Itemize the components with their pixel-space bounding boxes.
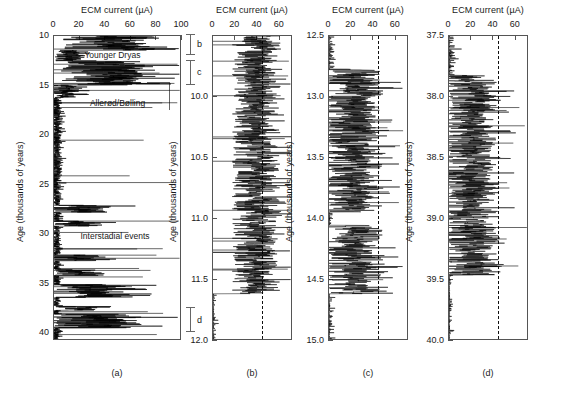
panel-b-xtick-mark: [234, 35, 235, 40]
panel-d-ytick-mark: [448, 96, 453, 97]
panel-d-ytick-mark: [448, 157, 453, 158]
annotation-leader-line: [169, 82, 170, 110]
panel-b-ytick-mark: [212, 218, 217, 219]
panel-c-xtick-label: 60: [390, 19, 400, 29]
panel-a-xtick-mark: [181, 35, 182, 40]
bracket-stem: [190, 307, 191, 332]
panel-c-ytick-mark: [328, 218, 333, 219]
panel-a-xtick-label: 60: [125, 19, 135, 29]
panel-d-ytick-mark: [448, 340, 453, 341]
panel-d-ytick-label: 37.5: [414, 30, 444, 40]
panel-b-caption: (b): [247, 368, 258, 378]
panel-b-plot-frame: [212, 35, 292, 340]
panel-b-y-axis-label: Age (thousands of years): [168, 141, 178, 242]
panel-c-xtick-mark: [350, 35, 351, 40]
panel-d-plot-frame: [448, 35, 528, 340]
bracket-stem: [190, 60, 191, 85]
panel-c-ytick-label: 15.0: [294, 335, 324, 345]
panel-c-xtick-label: 20: [345, 19, 355, 29]
panel-c-ytick-label: 13.0: [294, 91, 324, 101]
panel-b-xtick-label: 0: [209, 19, 214, 29]
panel-b-ytick-label: 11.5: [178, 274, 208, 284]
panel-b-ytick-label: 10.0: [178, 91, 208, 101]
panel-d-xtick-label: 20: [465, 19, 475, 29]
panel-c-xtick-mark: [395, 35, 396, 40]
panel-c-caption: (c): [363, 368, 374, 378]
panel-c-xtick-mark: [372, 35, 373, 40]
bracket-cap: [186, 54, 195, 55]
panel-a-ytick-label: 30: [25, 228, 49, 238]
panel-a-xtick-mark: [130, 35, 131, 40]
bracket-cap: [186, 60, 195, 61]
panel-b-xtick-label: 40: [251, 19, 261, 29]
bracket-cap: [186, 34, 195, 35]
panel-a-xtick-label: 20: [74, 19, 84, 29]
panel-d-x-ticklabels: 0204060: [448, 19, 528, 31]
panel-a-xtick-label: 40: [99, 19, 109, 29]
panel-a-annotation: Younger Dryas: [83, 50, 141, 60]
panel-a-ytick-label: 25: [25, 179, 49, 189]
panel-d-reference-line: [498, 36, 499, 339]
panel-c-ytick-label: 14.5: [294, 274, 324, 284]
panel-c-x-ticklabels: 0204060: [328, 19, 408, 31]
bracket-cap: [186, 307, 195, 308]
panel-c-ytick-mark: [328, 157, 333, 158]
panel-c-ytick-label: 14.0: [294, 213, 324, 223]
panel-c-ytick-mark: [328, 340, 333, 341]
panel-c-ytick-mark: [328, 96, 333, 97]
bracket-label: b: [197, 39, 202, 49]
annotation-leader-line: [147, 82, 170, 83]
panel-c-ytick-label: 13.5: [294, 152, 324, 162]
panel-c-ytick-mark: [328, 35, 333, 36]
panel-b-xtick-mark: [256, 35, 257, 40]
panel-b-xtick-label: 20: [229, 19, 239, 29]
panel-c-plot-frame: [328, 35, 408, 340]
panel-d-xtick-mark: [470, 35, 471, 40]
panel-b-ytick-label: 11.0: [178, 213, 208, 223]
panel-d-xtick-mark: [492, 35, 493, 40]
panel-b-ytick-label: 12.0: [178, 335, 208, 345]
panel-a-annotation: Interstadial events: [80, 231, 151, 241]
panel-a-xtick-mark: [104, 35, 105, 40]
panel-a-bracket-b: b: [186, 34, 208, 55]
panel-a-bracket-d: d: [186, 307, 208, 332]
panel-d-axis-title: ECM current (µA): [418, 5, 558, 15]
panel-a-xtick-mark: [155, 35, 156, 40]
panel-d-ytick-label: 38.5: [414, 152, 444, 162]
panel-a-xtick-label: 0: [50, 19, 55, 29]
panel-c-ytick-label: 12.5: [294, 30, 324, 40]
panel-a-xtick-label: 80: [150, 19, 160, 29]
panel-b-x-ticklabels: 0204060: [212, 19, 292, 31]
panel-b-ytick-mark: [212, 279, 217, 280]
panel-a-x-ticklabels: 020406080100: [53, 19, 181, 31]
panel-c-ytick-mark: [328, 279, 333, 280]
panel-a-xtick-label: 100: [173, 19, 188, 29]
panel-a-ytick-mark: [53, 283, 58, 284]
panel-a-plot-frame: [53, 35, 181, 340]
panel-d-ytick-label: 39.0: [414, 213, 444, 223]
panel-a-annotation: Allerød/Bølling: [89, 98, 146, 108]
bracket-cap: [186, 84, 195, 85]
panel-a-ytick-mark: [53, 332, 58, 333]
bracket-cap: [186, 331, 195, 332]
panel-c-axis-title: ECM current (µA): [298, 5, 438, 15]
panel-a-ytick-mark: [53, 85, 58, 86]
panel-b-ytick-label: 10.5: [178, 152, 208, 162]
panel-d-ytick-label: 38.0: [414, 91, 444, 101]
bracket-stem: [190, 34, 191, 55]
panel-d-caption: (d): [483, 368, 494, 378]
panel-c-y-axis-label: Age (thousands of years): [284, 141, 294, 242]
bracket-label: c: [197, 67, 202, 77]
panel-c-reference-line: [378, 36, 379, 339]
panel-b-ytick-mark: [212, 96, 217, 97]
panel-d-ytick-mark: [448, 35, 453, 36]
bracket-label: d: [197, 315, 202, 325]
panel-d-ytick-mark: [448, 279, 453, 280]
panel-a-xtick-mark: [79, 35, 80, 40]
panel-d-xtick-label: 40: [487, 19, 497, 29]
panel-a-y-axis-label: Age (thousands of years): [15, 141, 25, 242]
panel-a-ytick-mark: [53, 233, 58, 234]
panel-d-xtick-label: 0: [445, 19, 450, 29]
panel-d-xtick-label: 60: [510, 19, 520, 29]
panel-a-bracket-c: c: [186, 60, 208, 85]
